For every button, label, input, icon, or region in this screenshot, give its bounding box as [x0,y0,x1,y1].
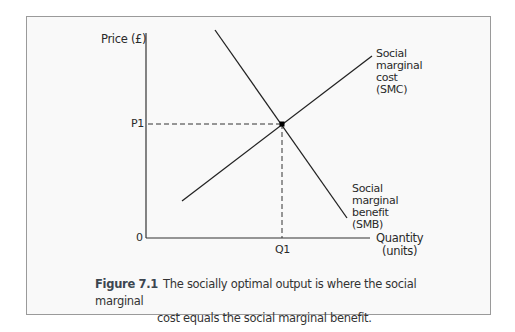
y-axis-label: Price (£) [101,33,146,45]
smb-label: Social marginal benefit (SMB) [352,183,398,231]
p1-label: P1 [131,118,144,130]
x-axis-label-line2: (units) [382,245,417,257]
smc-label: Social marginal cost (SMC) [376,48,422,96]
figure-caption: Figure 7.1The socially optimal output is… [95,276,465,327]
smb-label-line: (SMB) [352,219,398,231]
equilibrium-point [280,122,285,127]
smc-label-line: (SMC) [376,84,422,96]
smc-curve [182,56,372,201]
q1-label: Q1 [275,244,290,256]
x-axis-label-line1: Quantity [376,232,423,244]
origin-label: 0 [136,232,143,244]
caption-line2: cost equals the social marginal benefit. [95,310,465,327]
figure-number: Figure 7.1 [95,277,158,291]
